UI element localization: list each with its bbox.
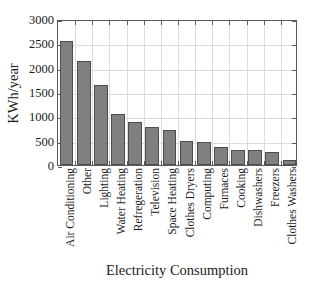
bar-chart-figure: KWh/year 050010001500200025003000 Air Co… xyxy=(0,0,322,294)
y-axis-title-text: KWh/year xyxy=(5,63,22,123)
x-axis-title: Electricity Consumption xyxy=(57,262,297,279)
plot-area xyxy=(57,20,297,166)
bar xyxy=(231,150,245,165)
bar xyxy=(214,147,228,165)
bar xyxy=(145,127,159,165)
bar xyxy=(77,61,91,165)
y-tick-label: 500 xyxy=(20,134,54,149)
bar xyxy=(128,122,142,165)
y-tick-label: 2000 xyxy=(20,61,54,76)
y-tick-label: 3000 xyxy=(20,13,54,28)
bar xyxy=(60,41,74,165)
y-axis-tick-labels: 050010001500200025003000 xyxy=(20,20,54,166)
y-tick-label: 0 xyxy=(20,159,54,174)
bar xyxy=(180,141,194,165)
bar xyxy=(197,142,211,165)
bar xyxy=(248,150,262,165)
y-tick-label: 1000 xyxy=(20,110,54,125)
bar xyxy=(94,85,108,165)
bar xyxy=(265,152,279,165)
bar xyxy=(283,160,297,165)
bar-series xyxy=(58,21,296,165)
bar xyxy=(163,130,177,165)
y-tick-label: 2500 xyxy=(20,37,54,52)
bar xyxy=(111,114,125,165)
y-tick-label: 1500 xyxy=(20,86,54,101)
x-axis-tick-labels: Air ConditioningOtherLightingWater Heati… xyxy=(57,168,297,258)
